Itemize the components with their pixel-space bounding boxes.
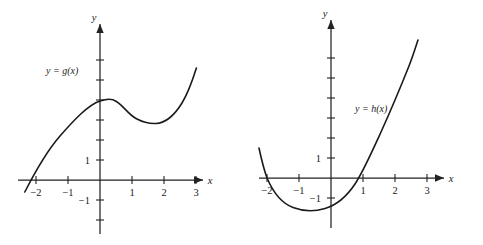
y-axis-name-h: y bbox=[322, 8, 328, 19]
curve-g bbox=[25, 68, 197, 192]
curve-label-h: y = h(x) bbox=[354, 103, 388, 115]
x-tick-label-neg1-g: −1 bbox=[62, 187, 73, 198]
y-axis-arrow-g bbox=[96, 24, 103, 33]
y-tick-label-1-g: 1 bbox=[85, 155, 90, 166]
x-tick-label-neg1-h: −1 bbox=[293, 185, 304, 196]
y-axis-arrow-h bbox=[327, 20, 334, 29]
x-tick-label-1-h: 1 bbox=[360, 185, 365, 196]
x-axis-name-h: x bbox=[448, 173, 454, 184]
y-axis-name-g: y bbox=[91, 12, 97, 23]
graph-panel-h: −2 −1 1 2 3 1 −1 x y y = h(x) bbox=[241, 0, 483, 245]
x-tick-label-2-g: 2 bbox=[161, 187, 166, 198]
curve-label-g: y = g(x) bbox=[45, 65, 79, 77]
x-tick-label-3-h: 3 bbox=[424, 185, 429, 196]
graph-svg-h: −2 −1 1 2 3 1 −1 x y y = h(x) bbox=[241, 0, 483, 245]
graph-svg-g: −2 −1 1 2 3 1 −1 x y y = g(x) bbox=[0, 0, 242, 245]
x-tick-label-1-g: 1 bbox=[129, 187, 134, 198]
x-axis-arrow-g bbox=[194, 176, 203, 183]
y-tick-label-neg1-g: −1 bbox=[79, 195, 90, 206]
x-tick-label-3-g: 3 bbox=[193, 187, 198, 198]
x-axis-name-g: x bbox=[207, 175, 213, 186]
y-tick-label-1-h: 1 bbox=[316, 153, 321, 164]
x-tick-label-2-h: 2 bbox=[392, 185, 397, 196]
figure-two-graphs: −2 −1 1 2 3 1 −1 x y y = g(x) bbox=[0, 0, 483, 245]
graph-panel-g: −2 −1 1 2 3 1 −1 x y y = g(x) bbox=[0, 0, 242, 245]
x-axis-arrow-h bbox=[435, 174, 444, 181]
y-tick-label-neg1-h: −1 bbox=[310, 193, 321, 204]
x-tick-label-neg2-g: −2 bbox=[30, 187, 41, 198]
